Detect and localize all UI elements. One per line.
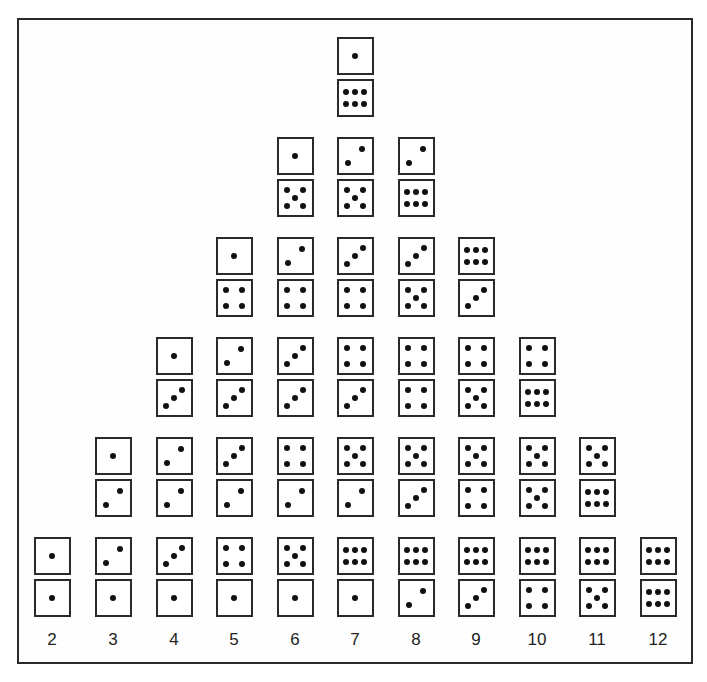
pip-dot bbox=[481, 345, 487, 351]
pip-dot bbox=[481, 403, 487, 409]
die-face-4 bbox=[458, 337, 495, 375]
pip-dot bbox=[413, 453, 419, 459]
die-face-4 bbox=[458, 479, 495, 517]
pip-dot bbox=[422, 189, 428, 195]
sum-label: 2 bbox=[27, 630, 77, 650]
pip-dot bbox=[361, 89, 367, 95]
pip-dot bbox=[464, 247, 470, 253]
pip-dot bbox=[284, 461, 290, 467]
pip-dot bbox=[542, 503, 548, 509]
die-face-4 bbox=[519, 337, 556, 375]
die-face-1 bbox=[95, 579, 132, 617]
die-face-3 bbox=[398, 237, 435, 275]
die-face-4 bbox=[277, 279, 314, 317]
pip-dot bbox=[360, 461, 366, 467]
pip-dot bbox=[49, 595, 55, 601]
pip-dot bbox=[465, 603, 471, 609]
pip-dot bbox=[284, 403, 290, 409]
pip-dot bbox=[231, 595, 237, 601]
pip-dot bbox=[585, 559, 591, 565]
pip-dot bbox=[223, 545, 229, 551]
pip-dot bbox=[285, 260, 291, 266]
die-face-6 bbox=[458, 237, 495, 275]
pip-dot bbox=[344, 261, 350, 267]
pip-dot bbox=[292, 195, 298, 201]
die-face-6 bbox=[398, 537, 435, 575]
die-face-6 bbox=[337, 537, 374, 575]
pip-dot bbox=[238, 346, 244, 352]
pip-dot bbox=[405, 461, 411, 467]
pip-dot bbox=[344, 303, 350, 309]
pip-dot bbox=[239, 561, 245, 567]
die-face-2 bbox=[398, 137, 435, 175]
pip-dot bbox=[465, 503, 471, 509]
pip-dot bbox=[361, 559, 367, 565]
pip-dot bbox=[534, 495, 540, 501]
pip-dot bbox=[413, 253, 419, 259]
pip-dot bbox=[646, 559, 652, 565]
pip-dot bbox=[284, 203, 290, 209]
pip-dot bbox=[343, 559, 349, 565]
pip-dot bbox=[360, 245, 366, 251]
pip-dot bbox=[543, 547, 549, 553]
pip-dot bbox=[352, 595, 358, 601]
die-face-2 bbox=[277, 237, 314, 275]
sum-label: 12 bbox=[633, 630, 683, 650]
pip-dot bbox=[655, 601, 661, 607]
pip-dot bbox=[359, 146, 365, 152]
die-face-5 bbox=[519, 479, 556, 517]
die-face-6 bbox=[458, 537, 495, 575]
pip-dot bbox=[361, 101, 367, 107]
pip-dot bbox=[178, 446, 184, 452]
pip-dot bbox=[421, 361, 427, 367]
die-face-2 bbox=[95, 537, 132, 575]
pip-dot bbox=[526, 461, 532, 467]
pip-dot bbox=[292, 553, 298, 559]
pip-dot bbox=[465, 303, 471, 309]
pip-dot bbox=[542, 587, 548, 593]
die-face-5 bbox=[579, 579, 616, 617]
pip-dot bbox=[292, 353, 298, 359]
die-face-2 bbox=[398, 579, 435, 617]
pip-dot bbox=[594, 489, 600, 495]
pip-dot bbox=[224, 502, 230, 508]
die-face-4 bbox=[277, 437, 314, 475]
pip-dot bbox=[526, 487, 532, 493]
die-face-2 bbox=[216, 337, 253, 375]
pip-dot bbox=[586, 445, 592, 451]
pip-dot bbox=[360, 287, 366, 293]
die-face-3 bbox=[277, 337, 314, 375]
pip-dot bbox=[602, 445, 608, 451]
die-face-1 bbox=[337, 579, 374, 617]
pip-dot bbox=[164, 460, 170, 466]
pip-dot bbox=[421, 287, 427, 293]
pip-dot bbox=[360, 345, 366, 351]
pip-dot bbox=[525, 401, 531, 407]
pip-dot bbox=[465, 445, 471, 451]
pip-dot bbox=[405, 303, 411, 309]
pip-dot bbox=[473, 395, 479, 401]
pip-dot bbox=[464, 547, 470, 553]
pip-dot bbox=[421, 303, 427, 309]
die-face-2 bbox=[337, 137, 374, 175]
pip-dot bbox=[284, 445, 290, 451]
pip-dot bbox=[344, 203, 350, 209]
die-face-5 bbox=[337, 179, 374, 217]
pip-dot bbox=[300, 445, 306, 451]
pip-dot bbox=[413, 295, 419, 301]
die-face-6 bbox=[398, 179, 435, 217]
pip-dot bbox=[646, 589, 652, 595]
pip-dot bbox=[352, 89, 358, 95]
die-face-3 bbox=[216, 379, 253, 417]
pip-dot bbox=[110, 595, 116, 601]
pip-dot bbox=[473, 547, 479, 553]
pip-dot bbox=[542, 445, 548, 451]
pip-dot bbox=[465, 345, 471, 351]
pip-dot bbox=[352, 547, 358, 553]
pip-dot bbox=[655, 559, 661, 565]
die-face-3 bbox=[337, 237, 374, 275]
die-face-4 bbox=[337, 279, 374, 317]
pip-dot bbox=[406, 602, 412, 608]
pip-dot bbox=[422, 559, 428, 565]
pip-dot bbox=[602, 603, 608, 609]
